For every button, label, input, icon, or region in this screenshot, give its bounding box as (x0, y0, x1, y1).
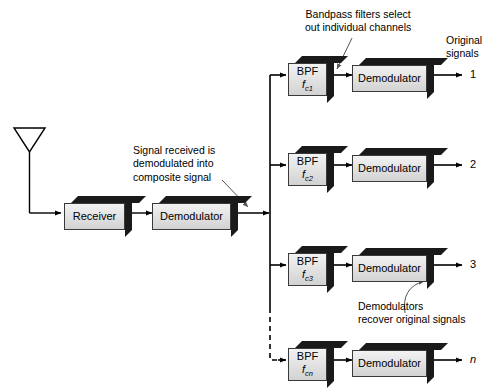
distribution-bus-dashed (270, 308, 278, 360)
annotation-received-line-2: demodulated into (133, 157, 215, 170)
block-main-demodulator[interactable]: Demodulator (152, 196, 238, 230)
annotation-bandpass-filters: Bandpass filters select out individual c… (305, 8, 411, 35)
demodulator-2-front-face: Demodulator (352, 155, 427, 182)
annotation-bandpass-line-2: out individual channels (305, 21, 411, 34)
annotation-demodulators-line-2: recover original signals (358, 313, 465, 326)
bpf-3-frequency: fc3 (302, 269, 313, 283)
main-demodulator-front-face: Demodulator (152, 203, 231, 230)
main-demodulator-right-face (231, 196, 238, 237)
bpf-n-frequency: fcn (302, 364, 313, 378)
main-demodulator-top-face (159, 196, 252, 203)
bpf-3-top-face (295, 246, 348, 253)
demodulator-n-right-face (427, 343, 434, 384)
demodulator-3-front-face: Demodulator (352, 255, 427, 282)
demodulator-3-right-face (427, 248, 434, 289)
demodulator-n-front-face: Demodulator (352, 350, 427, 377)
demodulator-1-front-face: Demodulator (352, 65, 427, 92)
output-label-2: 2 (470, 158, 476, 170)
block-bpf-2[interactable]: BPF fc2 (288, 146, 334, 186)
demodulator-1-label: Demodulator (358, 73, 421, 85)
bpf-3-right-face (327, 246, 334, 293)
block-bpf-3[interactable]: BPF fc3 (288, 246, 334, 286)
demodulator-n-top-face (359, 343, 448, 350)
block-demodulator-n[interactable]: Demodulator (352, 343, 434, 377)
annotation-original-line-1: Original (446, 34, 482, 47)
block-demodulator-3[interactable]: Demodulator (352, 248, 434, 282)
block-bpf-1[interactable]: BPF fc1 (288, 56, 334, 96)
annotation-received-line-3: composite signal (133, 171, 215, 184)
bpf-n-right-face (327, 341, 334, 388)
demodulator-2-label: Demodulator (358, 163, 421, 175)
bpf-n-top-face (295, 341, 348, 348)
bpf-3-front-face: BPF fc3 (288, 253, 327, 286)
bpf-1-right-face (327, 56, 334, 103)
annotation-demodulators-line-1: Demodulators (358, 300, 465, 313)
bpf-2-label: BPF (297, 156, 318, 168)
block-demodulator-2[interactable]: Demodulator (352, 148, 434, 182)
demodulator-3-label: Demodulator (358, 263, 421, 275)
output-label-1: 1 (470, 68, 476, 80)
fdm-receiver-diagram: Receiver Demodulator BPF fc1 Demodulator… (0, 0, 494, 391)
bpf-2-front-face: BPF fc2 (288, 153, 327, 186)
bpf-2-right-face (327, 146, 334, 193)
bpf-n-label: BPF (297, 351, 318, 363)
block-bpf-n[interactable]: BPF fcn (288, 341, 334, 381)
bpf-2-frequency: fc2 (302, 169, 313, 183)
annotation-original-line-2: signals (446, 47, 482, 60)
receiver-label: Receiver (73, 211, 116, 223)
demodulator-1-right-face (427, 58, 434, 99)
bpf-3-label: BPF (297, 256, 318, 268)
annotation-received-signal: Signal received is demodulated into comp… (133, 144, 215, 184)
demodulator-3-top-face (359, 248, 448, 255)
bpf-1-front-face: BPF fc1 (288, 63, 327, 96)
output-label-3: 3 (470, 258, 476, 270)
main-demodulator-label: Demodulator (160, 211, 223, 223)
annotation-received-line-1: Signal received is (133, 144, 215, 157)
bpf-n-front-face: BPF fcn (288, 348, 327, 381)
demodulator-2-right-face (427, 148, 434, 189)
block-receiver[interactable]: Receiver (64, 196, 132, 230)
antenna-icon (14, 128, 61, 213)
bpf-1-label: BPF (297, 66, 318, 78)
receiver-front-face: Receiver (64, 203, 125, 230)
receiver-top-face (71, 196, 146, 203)
demodulator-n-label: Demodulator (358, 358, 421, 370)
leader-bandpass-note (337, 38, 352, 69)
demodulator-2-top-face (359, 148, 448, 155)
annotation-demodulators-recover: Demodulators recover original signals (358, 300, 465, 327)
bpf-2-top-face (295, 146, 348, 153)
receiver-right-face (125, 196, 132, 237)
annotation-original-signals: Original signals (446, 34, 482, 61)
block-demodulator-1[interactable]: Demodulator (352, 58, 434, 92)
bpf-1-frequency: fc1 (302, 79, 313, 93)
annotation-bandpass-line-1: Bandpass filters select (305, 8, 411, 21)
output-label-n: n (470, 353, 476, 365)
bpf-1-top-face (295, 56, 348, 63)
demodulator-1-top-face (359, 58, 448, 65)
